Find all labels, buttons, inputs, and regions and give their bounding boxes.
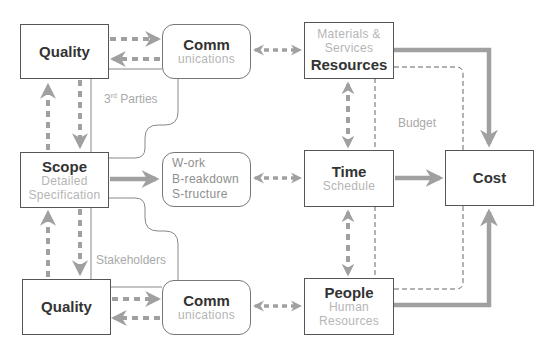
communications-bottom-box[interactable]: Comm unications: [162, 280, 251, 335]
third-parties-text: Parties: [117, 92, 158, 106]
scope-sub-line1: Detailed: [41, 175, 87, 189]
quality-bottom-box[interactable]: Quality: [22, 279, 111, 335]
people-title: People: [324, 284, 373, 301]
communications-bottom-title: Comm: [183, 292, 230, 309]
communications-top-subtitle: unications: [178, 53, 235, 67]
stakeholders-label: Stakeholders: [96, 253, 166, 267]
time-subtitle: Schedule: [323, 180, 375, 194]
quality-top-box[interactable]: Quality: [20, 24, 109, 79]
quality-bottom-title: Quality: [41, 298, 92, 315]
scope-title: Scope: [42, 158, 87, 175]
communications-top-title: Comm: [183, 36, 230, 53]
resources-pre-line1: Materials &: [317, 28, 380, 42]
people-sub-line2: Resources: [319, 315, 379, 329]
third-parties-label: 3rd Parties: [104, 92, 158, 106]
people-to-cost-arrow: [394, 212, 489, 305]
communications-top-box[interactable]: Comm unications: [162, 24, 251, 79]
budget-label: Budget: [398, 116, 436, 130]
resources-pre-line2: Services: [325, 42, 373, 56]
time-title: Time: [332, 163, 367, 180]
scope-sub-line2: Specification: [29, 189, 101, 203]
time-box[interactable]: Time Schedule: [304, 150, 394, 207]
people-sub-line1: Human: [329, 301, 369, 315]
wbs-line2: B-reakdown: [172, 172, 239, 188]
third-parties-number: 3: [104, 92, 111, 106]
cost-title: Cost: [473, 169, 506, 186]
cost-box[interactable]: Cost: [445, 150, 534, 206]
wbs-line1: W-ork: [172, 156, 205, 172]
communications-bottom-subtitle: unications: [178, 309, 235, 323]
resources-box[interactable]: Materials & Services Resources: [304, 22, 394, 79]
quality-top-title: Quality: [39, 43, 90, 60]
scope-box[interactable]: Scope Detailed Specification: [20, 152, 109, 208]
people-box[interactable]: People Human Resources: [304, 278, 394, 335]
wbs-box[interactable]: W-ork B-reakdown S-tructure: [162, 152, 251, 207]
wbs-line3: S-tructure: [172, 187, 228, 203]
stakeholders-boundary: [91, 198, 178, 287]
third-parties-boundary: [91, 69, 178, 158]
resources-title: Resources: [311, 56, 388, 73]
